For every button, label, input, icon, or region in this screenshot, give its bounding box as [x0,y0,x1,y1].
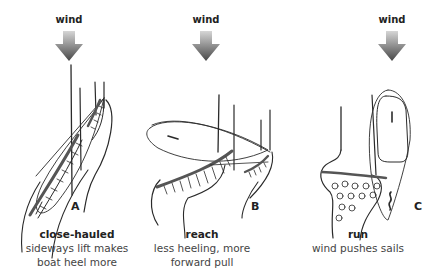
boat-drawing-reach [147,95,273,238]
boat-drawing-run [321,90,410,240]
wind-label-b: wind [186,14,226,25]
caption-description: wind pushes sails [288,241,428,255]
wind-label-a: wind [49,14,89,25]
caption-run: run wind pushes sails [288,227,428,255]
wind-label-c: wind [372,14,412,25]
caption-description: forward pull [132,255,272,269]
caption-reach: reach less heeling, more forward pull [132,227,272,269]
caption-close-hauled: close-hauled sideways lift makes boat he… [7,227,147,269]
panel-letter-a: A [71,200,80,213]
caption-description: less heeling, more [132,241,272,255]
wind-arrow-down-icon [192,31,220,61]
wind-arrow-down-icon [378,31,406,61]
caption-description: sideways lift makes [7,241,147,255]
wind-arrow-down-icon [55,31,83,61]
caption-title: run [288,227,428,241]
points-of-sail-diagram: wind wind wind A B C close-hauled sidewa… [0,0,436,277]
caption-description: boat heel more [7,255,147,269]
caption-title: reach [132,227,272,241]
caption-title: close-hauled [7,227,147,241]
panel-letter-c: C [414,200,422,213]
panel-letter-b: B [251,200,259,213]
